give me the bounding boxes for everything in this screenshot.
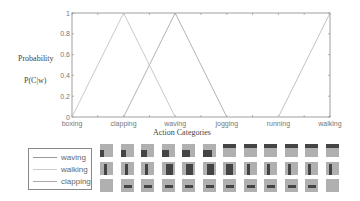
thumbnail xyxy=(223,179,236,192)
x-tick-label: jogging xyxy=(215,120,239,128)
thumbnail xyxy=(305,162,318,175)
y-tick-label: 0.2 xyxy=(60,93,70,100)
legend-item-walking: walking xyxy=(33,164,88,174)
thumbnail xyxy=(326,144,339,157)
thumbnail xyxy=(100,144,113,157)
thumbnail xyxy=(182,179,195,192)
y-tick-label: 0.4 xyxy=(60,72,70,79)
legend: waving walking clapping xyxy=(28,148,92,190)
legend-item-waving: waving xyxy=(33,152,86,162)
thumbnail xyxy=(244,162,257,175)
thumbnail xyxy=(244,179,257,192)
thumbnail xyxy=(162,144,175,157)
thumbnail xyxy=(182,162,195,175)
thumbnail xyxy=(100,162,113,175)
x-tick-label: clapping xyxy=(111,120,137,128)
thumbnail xyxy=(203,162,216,175)
thumbnail xyxy=(162,162,175,175)
thumbnail xyxy=(305,179,318,192)
thumbnail xyxy=(141,144,154,157)
thumbnail xyxy=(264,179,277,192)
thumbnail xyxy=(264,162,277,175)
thumbnail xyxy=(285,162,298,175)
thumbnail xyxy=(121,144,134,157)
x-tick-label: walking xyxy=(317,120,341,128)
thumbnail xyxy=(285,179,298,192)
thumbnail xyxy=(141,179,154,192)
thumbnail xyxy=(100,179,113,192)
thumbnail xyxy=(223,162,236,175)
thumbnail xyxy=(326,179,339,192)
thumbnail xyxy=(285,144,298,157)
series-line-waving xyxy=(124,13,227,117)
thumbnail xyxy=(121,162,134,175)
x-tick-label: running xyxy=(267,120,290,128)
thumbnail xyxy=(223,144,236,157)
x-axis-label: Action Categories xyxy=(153,128,211,137)
thumbnail xyxy=(244,144,257,157)
probability-chart: 00.20.40.60.81boxingclappingwavingjoggin… xyxy=(0,0,360,140)
y-tick-label: 0.8 xyxy=(60,30,70,37)
y-axis-label-formula: P(C|w) xyxy=(24,76,47,85)
thumbnail xyxy=(203,179,216,192)
y-tick-label: 0.6 xyxy=(60,51,70,58)
thumbnail xyxy=(121,179,134,192)
thumbnail xyxy=(203,144,216,157)
series-line-walking xyxy=(278,13,330,117)
thumbnail xyxy=(305,144,318,157)
y-axis-label: Probability xyxy=(18,54,54,63)
thumbnail xyxy=(162,179,175,192)
series-line-clapping xyxy=(72,13,175,117)
x-tick-label: waving xyxy=(163,120,186,128)
y-tick-label: 1 xyxy=(66,10,70,17)
thumbnail xyxy=(326,162,339,175)
legend-item-clapping: clapping xyxy=(33,176,91,186)
thumbnail xyxy=(264,144,277,157)
thumbnail xyxy=(182,144,195,157)
thumbnail xyxy=(141,162,154,175)
x-tick-label: boxing xyxy=(62,120,83,128)
